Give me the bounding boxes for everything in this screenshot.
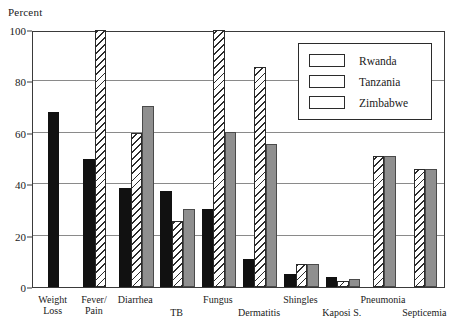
x-axis-label-pneumonia: Pneumonia (361, 294, 406, 305)
y-axis-title: Percent (8, 6, 42, 18)
bar-zimbabwe-kaposi-s- (349, 279, 361, 287)
bar-zimbabwe-septicemia (425, 169, 437, 287)
bar-tanzania-pneumonia (373, 156, 385, 287)
x-axis-label-kaposi-s-: Kaposi S. (322, 307, 361, 318)
bar-zimbabwe-diarrhea (142, 106, 154, 287)
bar-rwanda-fungus (202, 209, 214, 287)
bar-tanzania-dermatitis (254, 67, 266, 287)
legend-swatch-zimbabwe-icon (309, 96, 345, 109)
bar-zimbabwe-shingles (307, 264, 319, 287)
bar-tanzania-septicemia (414, 169, 426, 287)
y-tick-label-40: 40 (0, 180, 26, 191)
x-axis-label-weight-loss: Weight Loss (38, 294, 67, 316)
y-tick-label-60: 60 (0, 128, 26, 139)
bar-zimbabwe-pneumonia (384, 156, 396, 287)
x-axis-label-septicemia: Septicemia (402, 307, 446, 318)
bar-rwanda-kaposi-s- (326, 277, 338, 287)
bar-rwanda-weight-loss (48, 112, 60, 287)
bar-zimbabwe-fungus (225, 132, 237, 287)
y-tick-label-0: 0 (0, 283, 26, 294)
bar-tanzania-tb (172, 221, 184, 287)
legend-item-rwanda[interactable]: Rwanda (309, 50, 423, 71)
legend-item-tanzania[interactable]: Tanzania (309, 71, 423, 92)
x-axis-label-fever--pain: Fever/ Pain (81, 294, 107, 316)
bar-rwanda-shingles (284, 274, 296, 287)
legend-item-zimbabwe[interactable]: Zimbabwe (309, 92, 423, 113)
y-tick-label-80: 80 (0, 77, 26, 88)
bar-rwanda-tb (160, 191, 172, 287)
bar-tanzania-kaposi-s- (337, 281, 349, 287)
bar-rwanda-fever--pain (83, 159, 95, 288)
bar-rwanda-diarrhea (119, 188, 131, 287)
legend-label-tanzania: Tanzania (359, 76, 400, 88)
legend-swatch-rwanda-icon (309, 54, 345, 67)
x-axis-label-diarrhea: Diarrhea (118, 294, 153, 305)
legend-swatch-tanzania-icon (309, 75, 345, 88)
y-tick-label-20: 20 (0, 231, 26, 242)
x-axis-label-fungus: Fungus (203, 294, 232, 305)
legend-label-rwanda: Rwanda (359, 55, 397, 67)
chart-legend: RwandaTanzaniaZimbabwe (298, 43, 432, 120)
bar-rwanda-dermatitis (243, 259, 255, 287)
y-tick-label-100: 100 (0, 26, 26, 37)
bar-zimbabwe-dermatitis (266, 144, 278, 287)
bar-tanzania-diarrhea (131, 133, 143, 287)
x-axis-label-dermatitis: Dermatitis (238, 307, 280, 318)
x-axis-label-tb: TB (170, 307, 183, 318)
legend-label-zimbabwe: Zimbabwe (359, 97, 408, 109)
bar-tanzania-fungus (213, 30, 225, 287)
bar-tanzania-shingles (296, 264, 308, 287)
bar-tanzania-fever--pain (95, 30, 107, 287)
x-axis-label-shingles: Shingles (283, 294, 317, 305)
bar-zimbabwe-tb (183, 209, 195, 287)
